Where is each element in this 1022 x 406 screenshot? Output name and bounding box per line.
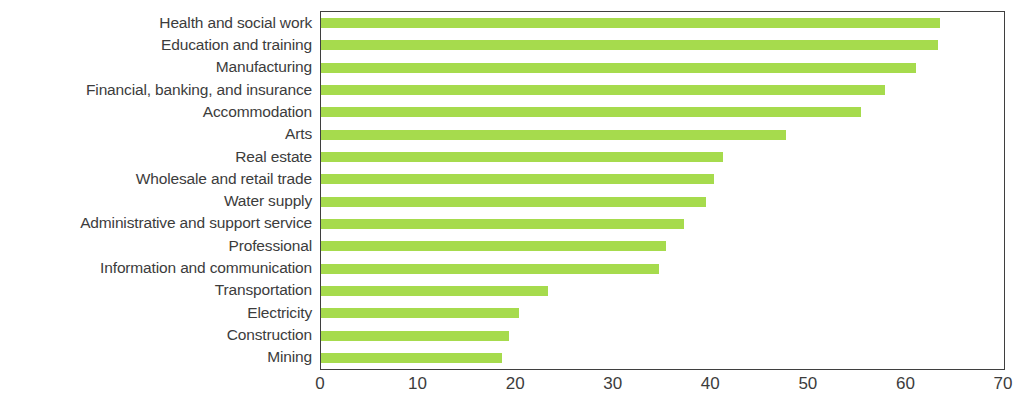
bar xyxy=(321,152,723,162)
category-label: Accommodation xyxy=(0,103,312,120)
category-label: Professional xyxy=(0,237,312,254)
x-tick-label: 60 xyxy=(896,374,915,394)
category-label: Wholesale and retail trade xyxy=(0,170,312,187)
bar-chart: Health and social workEducation and trai… xyxy=(0,0,1022,406)
category-label: Manufacturing xyxy=(0,58,312,75)
category-label: Construction xyxy=(0,326,312,343)
category-label: Mining xyxy=(0,348,312,365)
bars-layer xyxy=(321,12,1004,369)
bar xyxy=(321,18,940,28)
bar xyxy=(321,308,519,318)
bar xyxy=(321,40,938,50)
bar xyxy=(321,264,659,274)
bar xyxy=(321,107,861,117)
category-label: Electricity xyxy=(0,304,312,321)
bar xyxy=(321,85,885,95)
x-tick-label: 70 xyxy=(994,374,1013,394)
plot-area xyxy=(320,11,1005,370)
bar xyxy=(321,63,916,73)
x-axis: 010203040506070 xyxy=(320,370,1003,400)
category-axis: Health and social workEducation and trai… xyxy=(0,11,312,368)
bar xyxy=(321,219,684,229)
x-tick-label: 0 xyxy=(315,374,324,394)
category-label: Administrative and support service xyxy=(0,214,312,231)
category-label: Arts xyxy=(0,125,312,142)
bar xyxy=(321,197,706,207)
category-label: Financial, banking, and insurance xyxy=(0,81,312,98)
bar xyxy=(321,174,714,184)
x-tick-label: 30 xyxy=(603,374,622,394)
category-label: Information and communication xyxy=(0,259,312,276)
bar xyxy=(321,286,548,296)
category-label: Education and training xyxy=(0,36,312,53)
bar xyxy=(321,241,666,251)
bar xyxy=(321,331,509,341)
bar xyxy=(321,353,502,363)
category-label: Real estate xyxy=(0,148,312,165)
x-tick-label: 40 xyxy=(701,374,720,394)
x-tick-label: 20 xyxy=(506,374,525,394)
x-tick-label: 10 xyxy=(408,374,427,394)
category-label: Water supply xyxy=(0,192,312,209)
category-label: Transportation xyxy=(0,281,312,298)
x-tick-label: 50 xyxy=(798,374,817,394)
bar xyxy=(321,130,786,140)
category-label: Health and social work xyxy=(0,14,312,31)
